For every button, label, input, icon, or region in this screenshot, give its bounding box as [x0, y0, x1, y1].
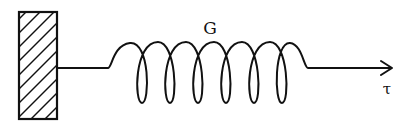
spring	[57, 42, 390, 103]
fixed-wall	[10, 0, 70, 122]
force-label: τ	[383, 80, 391, 98]
spring-diagram: G τ	[0, 0, 416, 122]
spring-label: G	[203, 18, 217, 38]
